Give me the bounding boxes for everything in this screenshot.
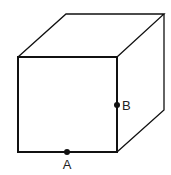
point-b-dot <box>114 102 120 108</box>
cube-top-face <box>18 14 164 57</box>
point-a-label: A <box>63 157 72 172</box>
cube-front-face <box>18 57 117 152</box>
point-b-label: B <box>122 98 131 113</box>
point-a-dot <box>64 149 70 155</box>
cube-diagram: A B <box>0 0 171 175</box>
